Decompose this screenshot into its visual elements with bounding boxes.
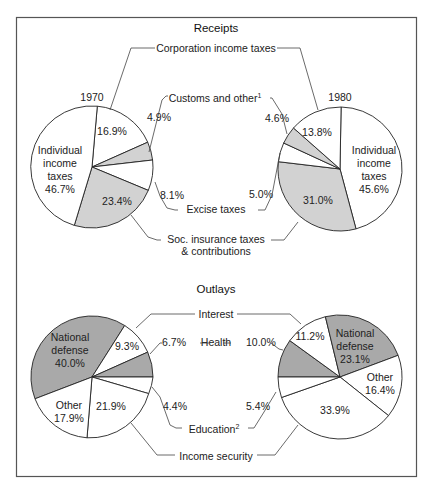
value-education-1970: 4.4% [163,400,187,412]
value-health-1980: 10.0% [246,336,276,348]
value-other-1970: 17.9% [54,412,84,424]
value-customs-1980: 4.6% [265,112,289,124]
value-interest-1980: 11.2% [296,330,325,342]
label-customs-and-other: Customs and other1 [169,92,262,104]
label-education: Education2 [189,423,240,435]
label-income-security: Income security [179,450,253,462]
value-individual-1980: 45.6% [359,183,389,195]
year-label-1980-receipts: 1980 [328,91,352,103]
year-label-1970-receipts: 1970 [80,91,104,103]
defense-label-1980-l2: defense [336,340,374,352]
value-national-defense-1970: 40.0% [55,357,85,369]
value-education-1980: 5.4% [246,400,270,412]
other-label-1980: Other [367,371,394,383]
individual-label-1980-l1: Individual [352,144,396,156]
individual-label-1970-l1: Individual [38,144,82,156]
value-individual-1970: 46.7% [45,183,75,195]
defense-label-1980-l1: National [336,327,375,339]
value-income-security-1970: 21.9% [96,400,126,412]
defense-label-1970-l2: defense [51,344,89,356]
label-excise-taxes: Excise taxes [187,203,246,215]
other-label-1970: Other [56,399,83,411]
defense-label-1970-l1: National [51,331,90,343]
value-health-1970: 6.7% [162,336,186,348]
label-interest: Interest [198,308,233,320]
value-income-security-1980: 33.9% [320,404,350,416]
value-soc-insurance-1970: 23.4% [102,195,132,207]
pie-outlays-1970 [31,316,153,438]
individual-label-1980-l2: income [357,157,391,169]
receipts-title: Receipts [194,22,239,34]
individual-label-1970-l2: income [43,157,77,169]
value-excise-1970: 8.1% [160,189,184,201]
value-corporation-1980: 13.8% [302,126,332,138]
value-soc-insurance-1980: 31.0% [303,194,333,206]
label-soc-insurance-l2: & contributions [181,245,250,257]
value-other-1980: 16.4% [365,384,395,396]
value-excise-1980: 5.0% [249,188,273,200]
value-national-defense-1980: 23.1% [340,353,370,365]
individual-label-1970-l3: taxes [47,170,72,182]
pie-chart-figure: Receipts 1970 16.9% 23.4% Individual inc… [0,0,430,488]
value-corporation-1970: 16.9% [97,125,127,137]
outlays-title: Outlays [197,283,236,295]
label-soc-insurance-l1: Soc. insurance taxes [167,233,264,245]
value-interest-1970: 9.3% [115,340,139,352]
label-corporation-income-taxes: Corporation income taxes [156,42,276,54]
individual-label-1980-l3: taxes [361,170,386,182]
label-health: Health [201,336,232,348]
